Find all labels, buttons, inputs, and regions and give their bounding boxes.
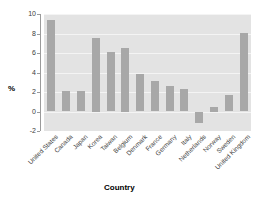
bar (92, 38, 100, 111)
x-tick-label: Japan (71, 133, 88, 150)
y-axis-ticks: 1086420-2 (0, 0, 44, 205)
y-axis-title: % (8, 84, 15, 93)
bar (62, 91, 70, 111)
x-axis-title: Country (104, 183, 135, 192)
y-tick-label: 4 (32, 69, 36, 77)
y-axis-line (40, 14, 41, 131)
plot-area (44, 14, 251, 131)
bar (210, 107, 218, 112)
y-tick-label: 8 (32, 30, 36, 38)
y-tick-label: 10 (28, 10, 36, 18)
bar (121, 48, 129, 111)
bar-chart: 1086420-2 % United StatesCanadaJapanKore… (0, 0, 261, 205)
bar (195, 112, 203, 124)
y-tick-label: -2 (30, 127, 36, 135)
bar (166, 86, 174, 111)
bar (180, 89, 188, 111)
bar (136, 74, 144, 111)
bar (77, 91, 85, 111)
gridline (44, 73, 251, 74)
zero-gridline (44, 112, 251, 113)
gridline (44, 53, 251, 54)
bar (107, 52, 115, 111)
y-tick-mark (37, 131, 40, 132)
bar (151, 81, 159, 111)
bar (225, 95, 233, 112)
y-tick-label: 2 (32, 88, 36, 96)
gridline (44, 14, 251, 15)
bar (47, 20, 55, 112)
gridline (44, 92, 251, 93)
gridline (44, 34, 251, 35)
y-tick-label: 6 (32, 49, 36, 57)
bar (240, 33, 248, 112)
y-tick-label: 0 (32, 108, 36, 116)
